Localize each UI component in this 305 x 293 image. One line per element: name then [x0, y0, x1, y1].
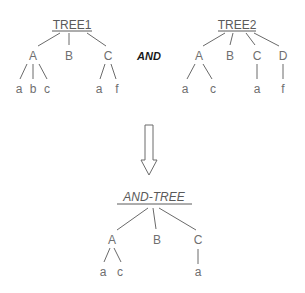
and-tree-node-A: A: [108, 233, 116, 247]
tree1-edge-root-A: [38, 33, 60, 46]
tree2-node-A: A: [195, 49, 203, 63]
tree2-leaf-A-c: c: [210, 82, 216, 96]
tree2-leaf-D-f: f: [281, 82, 285, 96]
operator-label: AND: [136, 50, 161, 62]
and-tree-edge-root-A: [117, 208, 148, 230]
tree2-edge-A-c: [203, 64, 212, 79]
tree2-edge-root-C: [246, 33, 255, 45]
tree1-leaf-A-a: a: [16, 82, 23, 96]
tree1-edge-C-f: [111, 64, 116, 79]
tree-merge-diagram: TREE1 A B C a b c a f AND TREE2 A B C D: [0, 0, 305, 293]
tree1-leaf-A-c: c: [44, 82, 50, 96]
tree2-node-B: B: [226, 49, 234, 63]
and-tree-edge-root-C: [159, 208, 196, 230]
and-tree-node-C: C: [194, 233, 203, 247]
tree2-edge-root-D: [254, 33, 279, 46]
and-tree-leaf-C-a: a: [195, 265, 202, 279]
tree1-leaf-A-b: b: [30, 82, 37, 96]
tree2-title: TREE2: [218, 18, 257, 32]
tree2-node-D: D: [279, 49, 288, 63]
tree1-node-C: C: [104, 49, 113, 63]
and-tree-edge-A-a: [104, 248, 110, 262]
tree1-edge-A-c: [39, 64, 47, 79]
and-tree-node-B: B: [153, 233, 161, 247]
and-tree-leaf-A-c: c: [117, 265, 123, 279]
and-tree-edge-A-c: [114, 248, 121, 262]
tree1-node-B: B: [65, 49, 73, 63]
down-arrow-icon: [141, 125, 157, 175]
tree1-edge-A-a: [20, 64, 27, 79]
tree1-edge-root-C: [87, 33, 106, 46]
and-tree-leaf-A-a: a: [100, 265, 107, 279]
tree2-node-C: C: [253, 49, 262, 63]
tree1-title: TREE1: [53, 18, 92, 32]
tree1-leaf-C-a: a: [96, 82, 103, 96]
and-tree: AND-TREE A B C a c a: [100, 190, 203, 279]
and-tree-title: AND-TREE: [122, 190, 185, 204]
tree2-edge-root-A: [203, 33, 225, 46]
and-tree-edge-root-B: [153, 208, 156, 229]
tree2-leaf-A-a: a: [182, 82, 189, 96]
tree1-node-A: A: [29, 49, 37, 63]
tree2-edge-A-a: [187, 64, 195, 79]
tree2: TREE2 A B C D a c a f: [182, 18, 288, 96]
tree2-edge-root-B: [230, 33, 233, 45]
tree1-edge-C-a: [100, 64, 105, 79]
tree2-leaf-C-a: a: [254, 82, 261, 96]
tree1-leaf-C-f: f: [115, 82, 119, 96]
tree1: TREE1 A B C a b c a f: [16, 18, 120, 96]
